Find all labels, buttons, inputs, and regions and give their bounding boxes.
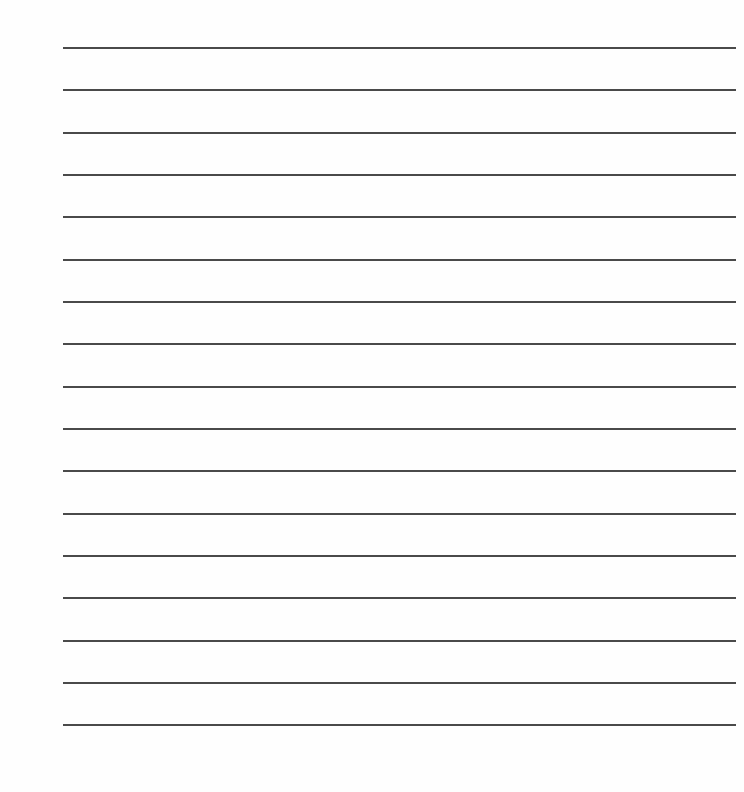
ruled-line xyxy=(63,89,736,91)
ruled-line xyxy=(63,47,736,49)
ruled-line xyxy=(63,386,736,388)
ruled-line xyxy=(63,132,736,134)
ruled-line xyxy=(63,216,736,218)
ruled-line xyxy=(63,301,736,303)
ruled-line xyxy=(63,640,736,642)
ruled-line xyxy=(63,174,736,176)
ruled-line xyxy=(63,555,736,557)
ruled-line xyxy=(63,428,736,430)
ruled-line xyxy=(63,724,736,726)
ruled-line xyxy=(63,597,736,599)
ruled-line xyxy=(63,343,736,345)
ruled-line xyxy=(63,259,736,261)
ruled-line xyxy=(63,470,736,472)
lined-paper-page xyxy=(0,0,744,792)
ruled-line xyxy=(63,513,736,515)
ruled-line xyxy=(63,682,736,684)
